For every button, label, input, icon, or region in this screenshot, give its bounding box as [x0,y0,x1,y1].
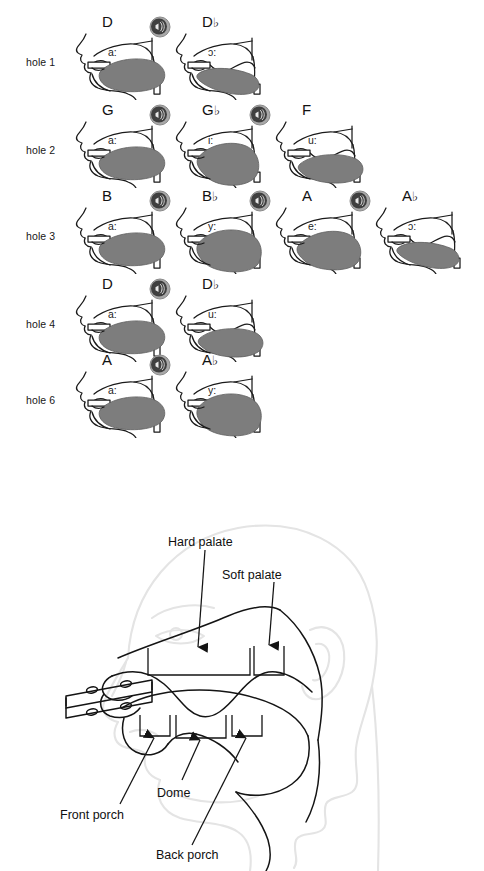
vowel-chart: hole 1D a: [0,0,484,440]
note-letter: B [102,187,112,204]
vowel-symbol: ɔ: [208,46,216,58]
chart-row: hole 3B a: [0,188,484,276]
chart-row: hole 1D a: [0,14,484,102]
note-label: D♭ [202,14,219,30]
speaker-icon[interactable] [249,104,271,126]
vowel-symbol: a: [108,46,117,58]
speaker-icon[interactable] [249,190,271,212]
note-label: G [102,102,114,117]
flat-sign: ♭ [213,15,219,30]
note-cell: F u: [262,102,364,190]
leader-back-porch [192,738,246,845]
leader-hard-palate [198,550,205,647]
vowel-symbol: a: [108,384,117,396]
tongue-shape [197,230,261,272]
note-letter: G [202,101,214,118]
callout-brackets [140,646,284,738]
vowel-symbol: a: [108,134,117,146]
note-letter: D [102,275,113,292]
flat-sign: ♭ [212,353,218,368]
note-label: D [102,14,113,29]
sagittal-head-diagram [370,204,466,274]
sagittal-head-diagram [70,204,166,274]
vowel-symbol: a: [108,308,117,320]
note-letter: D [102,13,113,30]
note-letter: F [302,101,311,118]
vowel-symbol: u: [208,308,217,320]
note-label: D♭ [202,276,219,292]
note-letter: A [302,187,312,204]
speaker-icon[interactable] [149,278,171,300]
note-label: G♭ [202,102,220,118]
speaker-icon[interactable] [149,190,171,212]
label-front-porch: Front porch [60,808,124,822]
sagittal-head-diagram [170,368,266,438]
speaker-icon[interactable] [149,354,171,376]
label-soft-palate: Soft palate [222,568,282,582]
speaker-icon[interactable] [349,190,371,212]
vowel-symbol: ɔ: [408,220,416,232]
note-letter: G [102,101,114,118]
note-label: F [302,102,311,117]
sagittal-head-diagram [70,30,166,100]
sagittal-head-diagram [270,118,366,188]
vowel-symbol: u: [308,134,317,146]
flat-sign: ♭ [212,189,218,204]
note-label: A♭ [202,352,218,368]
leader-dome [182,740,200,780]
leader-soft-palate [269,582,274,645]
vowel-symbol: y: [208,220,216,232]
note-letter: A [102,351,112,368]
hole-row-label: hole 1 [26,56,55,68]
flat-sign: ♭ [214,103,220,118]
vowel-symbol: e: [308,220,317,232]
note-label: B [102,188,112,203]
label-dome: Dome [157,786,190,800]
sagittal-head-diagram [270,204,366,274]
note-label: A [302,188,312,203]
vowel-symbol: a: [108,220,117,232]
note-label: B♭ [202,188,218,204]
note-letter: D [202,275,213,292]
label-hard-palate: Hard palate [168,535,233,549]
flat-sign: ♭ [213,277,219,292]
sagittal-head-diagram [170,204,266,274]
chart-row: hole 2G a: [0,102,484,190]
hole-row-label: hole 6 [26,394,55,406]
hole-row-label: hole 3 [26,230,55,242]
sagittal-head-diagram [170,118,266,188]
vowel-symbol: i: [208,134,213,146]
anatomy-diagram: Hard palate Soft palate Dome Front porch… [0,440,484,871]
note-label: A♭ [402,188,418,204]
speaker-icon[interactable] [149,104,171,126]
note-cell: A♭ ɔ: [362,188,464,276]
note-letter: D [202,13,213,30]
note-letter: A [202,351,212,368]
sagittal-head-diagram [170,30,266,100]
label-back-porch: Back porch [156,848,219,862]
note-letter: A [402,187,412,204]
sagittal-head-diagram [70,118,166,188]
anatomy-illustration [0,440,484,871]
note-cell: D♭ u: [162,276,264,364]
chart-row: hole 4D a: [0,276,484,364]
note-label: A [102,352,112,367]
hole-row-label: hole 2 [26,144,55,156]
hole-row-label: hole 4 [26,318,55,330]
note-cell: D♭ ɔ: [162,14,264,102]
note-cell: A♭ y: [162,352,264,440]
flat-sign: ♭ [412,189,418,204]
sagittal-head-diagram [70,368,166,438]
note-label: D [102,276,113,291]
chart-row: hole 6A a: [0,352,484,440]
vowel-symbol: y: [208,384,216,396]
tongue-shape [197,394,261,436]
speaker-icon[interactable] [149,16,171,38]
note-letter: B [202,187,212,204]
